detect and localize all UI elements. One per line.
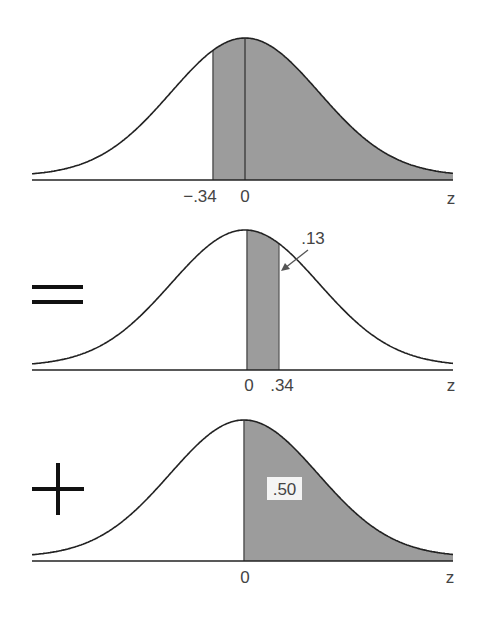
axis-label: 0 [244,376,253,395]
figure-canvas: −.340z 0.34z.13 0z.50 [0,0,479,622]
shaded-area [247,230,279,370]
axis-label: 0 [240,568,249,587]
normal-curve [32,230,453,364]
normal-curve [32,420,453,555]
axis-label: z [447,189,456,208]
panel-middle-curve: 0.34z.13 [32,229,455,395]
axis-label: .34 [270,376,294,395]
axis-label: 0 [240,187,249,206]
arrow-icon [285,250,308,268]
normal-area-figure: −.340z 0.34z.13 0z.50 −.34 0 z = .13 + .… [0,0,479,622]
axis-label: .13 [301,229,325,248]
panel-bottom-curve: 0z.50 [32,420,454,587]
plus-sign-icon [32,463,84,515]
axis-label: −.34 [183,187,217,206]
area-label: .50 [273,480,297,499]
axis-label: z [446,568,455,587]
panel-top-curve: −.340z [32,38,455,208]
equals-sign-icon [32,287,83,302]
axis-label: z [447,376,456,395]
